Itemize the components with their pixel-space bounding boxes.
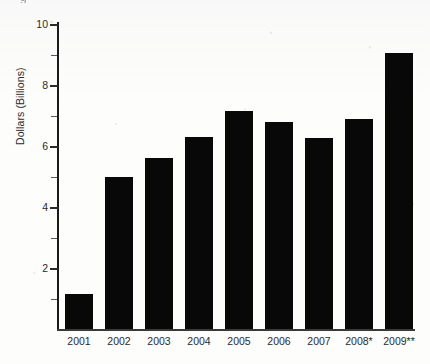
bar-2003	[145, 158, 173, 329]
y-tick-major-10	[50, 24, 58, 26]
y-tick-label-8: 8	[26, 80, 48, 91]
y-tick-minor-1	[51, 299, 57, 300]
bar-2005	[225, 111, 253, 329]
bar-2007	[305, 138, 333, 329]
y-tick-major-4	[50, 207, 58, 209]
y-tick-label-10: 10	[26, 19, 48, 30]
y-tick-major-6	[50, 146, 58, 148]
x-tick-label-2009: 2009**	[376, 336, 422, 347]
plot-area: 2001 2002 2003 2004 2005 2006 2007 2008*…	[57, 24, 415, 329]
chart-page: g Dollars (Billions) 10 8 6 4 2 2001 200…	[0, 0, 430, 364]
bar-2008	[345, 119, 373, 329]
y-tick-minor-3	[51, 238, 57, 239]
y-tick-label-4: 4	[26, 202, 48, 213]
y-tick-label-6: 6	[26, 141, 48, 152]
y-axis-title: Dollars (Billions)	[14, 67, 26, 145]
y-tick-major-8	[50, 85, 58, 87]
y-axis-line	[57, 22, 59, 329]
bar-2001	[65, 294, 93, 329]
x-axis-line	[57, 329, 415, 331]
bar-2009	[385, 53, 413, 329]
bar-2004	[185, 137, 213, 329]
y-tick-minor-9	[51, 55, 57, 56]
y-tick-minor-7	[51, 116, 57, 117]
bar-2006	[265, 122, 293, 329]
y-tick-major-2	[50, 268, 58, 270]
y-tick-label-2: 2	[26, 263, 48, 274]
cropped-caption-fragment: g	[20, 0, 34, 3]
bar-2002	[105, 177, 133, 330]
y-tick-minor-5	[51, 177, 57, 178]
